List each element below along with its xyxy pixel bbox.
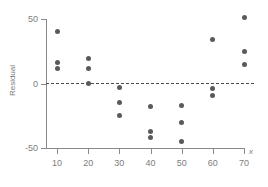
x-tick-label: 50 bbox=[170, 158, 194, 168]
y-axis-line bbox=[46, 19, 47, 149]
data-point bbox=[117, 113, 122, 118]
y-tick-label: 50 bbox=[12, 14, 38, 24]
x-tick-label: 20 bbox=[76, 158, 100, 168]
zero-reference-line bbox=[46, 83, 254, 84]
data-point bbox=[179, 103, 184, 108]
data-point bbox=[179, 120, 184, 125]
data-point bbox=[148, 104, 153, 109]
data-point bbox=[242, 62, 247, 67]
residual-scatter-plot: 500-50 10203040506070 Residual x bbox=[0, 0, 268, 187]
y-tick-mark bbox=[41, 148, 46, 149]
data-point bbox=[242, 49, 247, 54]
data-point bbox=[117, 100, 122, 105]
data-point bbox=[210, 37, 215, 42]
x-tick-label: 30 bbox=[107, 158, 131, 168]
x-tick-mark bbox=[182, 149, 183, 154]
x-tick-mark bbox=[119, 149, 120, 154]
data-point bbox=[86, 56, 91, 61]
x-tick-mark bbox=[244, 149, 245, 154]
x-axis-title: x bbox=[249, 147, 253, 156]
data-point bbox=[86, 81, 91, 86]
x-tick-mark bbox=[57, 149, 58, 154]
y-tick-mark bbox=[41, 19, 46, 20]
data-point bbox=[55, 60, 60, 65]
data-point bbox=[148, 129, 153, 134]
x-tick-mark bbox=[151, 149, 152, 154]
x-tick-mark bbox=[213, 149, 214, 154]
x-tick-label: 10 bbox=[45, 158, 69, 168]
x-tick-label: 40 bbox=[139, 158, 163, 168]
y-tick-label: -50 bbox=[12, 143, 38, 153]
data-point bbox=[117, 85, 122, 90]
data-point bbox=[55, 66, 60, 71]
data-point bbox=[86, 66, 91, 71]
x-tick-mark bbox=[88, 149, 89, 154]
x-axis-line bbox=[46, 148, 245, 149]
x-tick-label: 60 bbox=[201, 158, 225, 168]
data-point bbox=[179, 139, 184, 144]
data-point bbox=[242, 15, 247, 20]
data-point bbox=[210, 93, 215, 98]
data-point bbox=[55, 29, 60, 34]
y-axis-title: Residual bbox=[8, 53, 17, 109]
data-point bbox=[148, 135, 153, 140]
x-tick-label: 70 bbox=[232, 158, 256, 168]
data-point bbox=[210, 86, 215, 91]
